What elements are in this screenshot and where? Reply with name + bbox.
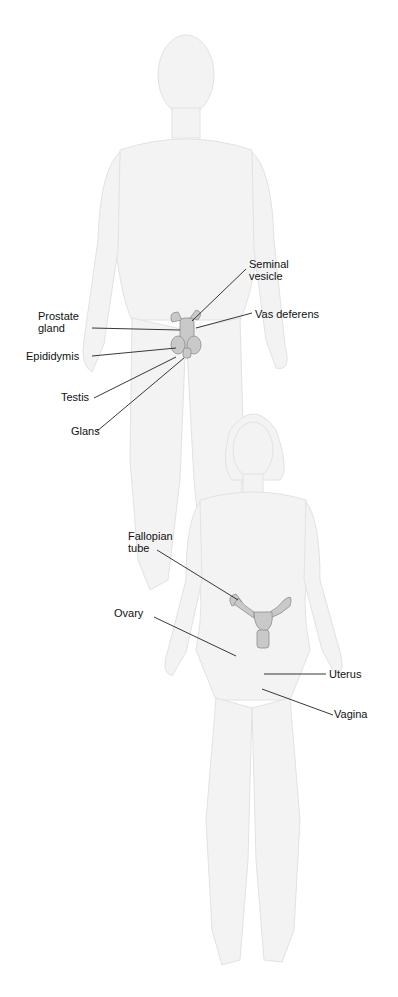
label-prostate-gland: Prostate gland (38, 310, 79, 334)
female-body-silhouette (165, 414, 342, 965)
label-fallopian-tube: Fallopian tube (128, 530, 173, 554)
label-glans: Glans (71, 425, 100, 437)
label-vagina: Vagina (334, 708, 367, 720)
anatomy-figure (0, 0, 398, 997)
label-vas-deferens: Vas deferens (255, 308, 319, 320)
label-seminal-vesicle: Seminal vesicle (249, 258, 289, 282)
label-ovary: Ovary (114, 607, 143, 619)
label-uterus: Uterus (329, 668, 361, 680)
label-epididymis: Epididymis (26, 350, 79, 362)
label-testis: Testis (61, 391, 89, 403)
